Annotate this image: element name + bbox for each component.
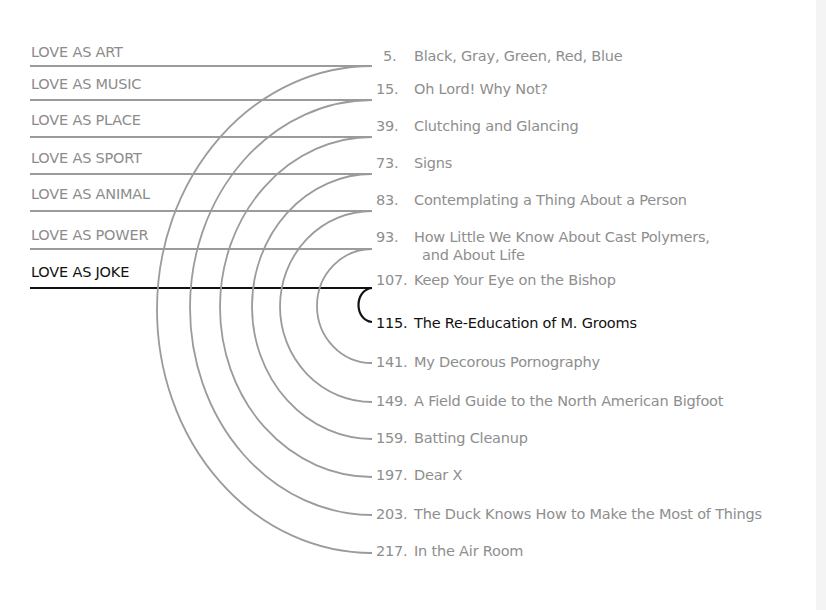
story-page-number: 197.	[376, 466, 408, 484]
story-entry: 107.Keep Your Eye on the Bishop	[376, 271, 408, 289]
story-entry: 39.Clutching and Glancing	[376, 117, 398, 135]
category-label: LOVE AS ANIMAL	[31, 186, 150, 202]
story-entry: 217.In the Air Room	[376, 542, 408, 560]
story-page-number: 141.	[376, 353, 408, 371]
story-entry: 203.The Duck Knows How to Make the Most …	[376, 505, 408, 523]
story-title: Batting Cleanup	[414, 429, 528, 447]
connector-arc	[317, 249, 372, 363]
story-page-number: 15.	[376, 80, 398, 98]
story-title: A Field Guide to the North American Bigf…	[414, 392, 723, 410]
category-label: LOVE AS PLACE	[31, 112, 141, 128]
category-label: LOVE AS MUSIC	[31, 76, 141, 92]
story-entry: 83.Contemplating a Thing About a Person	[376, 191, 398, 209]
story-page-number: 73.	[376, 154, 398, 172]
connector-arc	[359, 288, 373, 322]
story-title: Dear X	[414, 466, 462, 484]
story-title: Clutching and Glancing	[414, 117, 578, 135]
story-title: Black, Gray, Green, Red, Blue	[414, 47, 623, 65]
story-title: Contemplating a Thing About a Person	[414, 191, 687, 209]
story-title: Signs	[414, 154, 452, 172]
story-page-number: 217.	[376, 542, 408, 560]
story-entry: 197.Dear X	[376, 466, 408, 484]
category-label: LOVE AS JOKE	[31, 264, 129, 280]
category-label: LOVE AS ART	[31, 44, 123, 60]
category-label: LOVE AS SPORT	[31, 150, 142, 166]
story-page-number: 39.	[376, 117, 398, 135]
story-entry: 93.How Little We Know About Cast Polymer…	[376, 228, 398, 246]
story-title: The Duck Knows How to Make the Most of T…	[414, 505, 762, 523]
category-label: LOVE AS POWER	[31, 227, 148, 243]
story-title: Oh Lord! Why Not?	[414, 80, 548, 98]
story-page-number: 159.	[376, 429, 408, 447]
story-page-number: 115.	[376, 314, 408, 332]
story-page-number: 107.	[376, 271, 408, 289]
story-entry: 149.A Field Guide to the North American …	[376, 392, 408, 410]
story-entry: 141.My Decorous Pornography	[376, 353, 408, 371]
connector-arc	[220, 137, 372, 477]
story-page-number: 5.	[383, 47, 396, 65]
story-page-number: 149.	[376, 392, 408, 410]
story-entry: 5.Black, Gray, Green, Red, Blue	[383, 47, 396, 65]
connector-arc	[190, 100, 372, 515]
story-title: In the Air Room	[414, 542, 523, 560]
story-entry: 15.Oh Lord! Why Not?	[376, 80, 398, 98]
connector-arc	[252, 174, 372, 439]
story-title: The Re-Education of M. Grooms	[414, 314, 637, 332]
story-title: My Decorous Pornography	[414, 353, 600, 371]
story-title: How Little We Know About Cast Polymers,	[414, 228, 710, 246]
story-entry: 115.The Re-Education of M. Grooms	[376, 314, 408, 332]
story-page-number: 83.	[376, 191, 398, 209]
story-entry: 159.Batting Cleanup	[376, 429, 408, 447]
story-page-number: 93.	[376, 228, 398, 246]
story-entry: 73.Signs	[376, 154, 398, 172]
story-page-number: 203.	[376, 505, 408, 523]
story-title: Keep Your Eye on the Bishop	[414, 271, 616, 289]
story-title-continued: and About Life	[422, 246, 525, 264]
